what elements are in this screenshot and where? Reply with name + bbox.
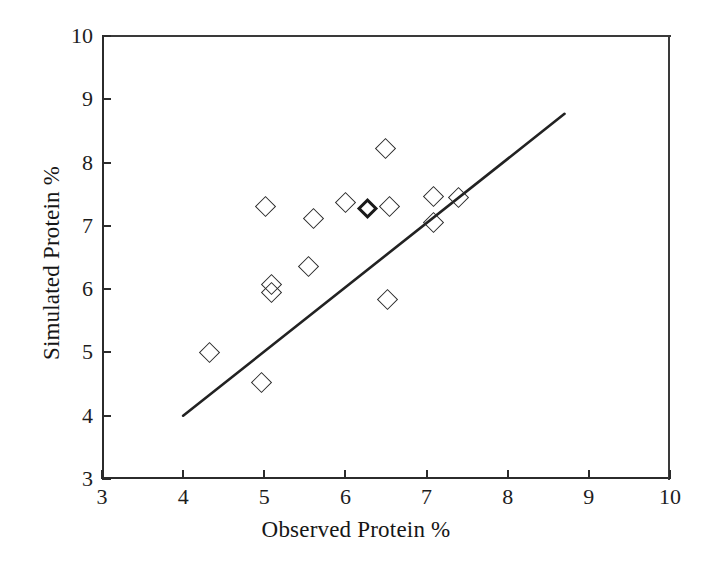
plot-axes-frame (102, 36, 670, 479)
x-tick-label: 5 (244, 486, 284, 508)
x-tick (507, 470, 509, 479)
scatter-plot-figure: 345678910 345678910 Observed Protein % S… (0, 0, 712, 563)
x-tick-label: 8 (488, 486, 528, 508)
x-tick-label: 10 (650, 486, 690, 508)
y-tick-label: 3 (53, 468, 93, 490)
x-tick (669, 470, 671, 479)
x-tick-label: 4 (163, 486, 203, 508)
y-axis-title: Simulated Protein % (39, 93, 65, 433)
x-tick (588, 470, 590, 479)
y-tick (102, 288, 111, 290)
y-tick (102, 162, 111, 164)
x-tick (263, 470, 265, 479)
x-tick-label: 6 (325, 486, 365, 508)
y-tick (102, 478, 111, 480)
plot-frame-right-border (668, 36, 670, 480)
x-tick-label: 9 (569, 486, 609, 508)
y-tick (102, 415, 111, 417)
x-tick (344, 470, 346, 479)
x-tick-label: 7 (407, 486, 447, 508)
plot-frame-top-border (102, 35, 671, 37)
y-tick (102, 225, 111, 227)
y-tick (102, 35, 111, 37)
y-tick (102, 98, 111, 100)
y-tick (102, 351, 111, 353)
x-tick (426, 470, 428, 479)
x-axis-title: Observed Protein % (0, 517, 712, 543)
y-tick-label: 10 (53, 25, 93, 47)
x-tick (182, 470, 184, 479)
